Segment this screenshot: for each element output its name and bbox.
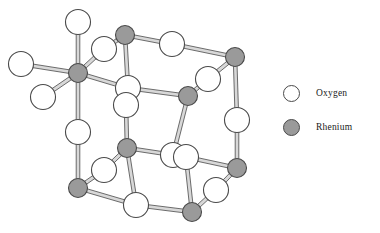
oxygen-atom	[9, 52, 34, 77]
rhenium-atom	[69, 179, 88, 198]
crystal-structure-figure: Oxygen Rhenium	[0, 0, 380, 233]
legend-label-rhenium: Rhenium	[316, 122, 352, 132]
rhenium-atom	[179, 87, 198, 106]
rhenium-swatch-icon	[283, 119, 300, 136]
oxygen-atom	[124, 193, 149, 218]
rhenium-atom	[183, 203, 202, 222]
legend-label-oxygen: Oxygen	[316, 88, 347, 98]
rhenium-atom	[116, 26, 135, 45]
rhenium-atom	[226, 48, 245, 67]
oxygen-atom	[174, 145, 199, 170]
oxygen-atom	[31, 85, 56, 110]
oxygen-atom	[66, 120, 91, 145]
oxygen-atom	[66, 10, 91, 35]
oxygen-atom	[114, 93, 139, 118]
oxygen-atom	[92, 158, 117, 183]
rhenium-atom	[69, 64, 88, 83]
atom-layer	[9, 10, 250, 222]
legend-item-oxygen: Oxygen	[283, 80, 378, 106]
oxygen-atom	[225, 108, 250, 133]
rhenium-atom	[228, 159, 247, 178]
legend: Oxygen Rhenium	[283, 80, 378, 148]
oxygen-atom	[160, 32, 185, 57]
rhenium-atom	[118, 139, 137, 158]
oxygen-atom	[196, 67, 221, 92]
oxygen-atom	[204, 178, 229, 203]
oxygen-atom	[92, 37, 117, 62]
oxygen-swatch-icon	[283, 85, 300, 102]
legend-item-rhenium: Rhenium	[283, 114, 378, 140]
